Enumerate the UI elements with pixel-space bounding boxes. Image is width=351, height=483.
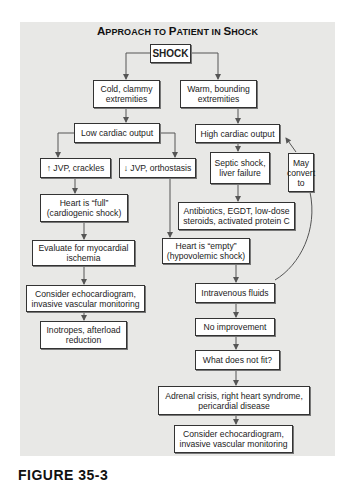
node-iv-fluids: Intravenous fluids: [195, 283, 275, 303]
node-jvp-crackles: ↑ JVP, crackles: [40, 158, 111, 178]
node-cold-extremities: Cold, clammy extremities: [93, 80, 160, 108]
node-heart-full: Heart is “full” (cardiogenic shock): [40, 194, 128, 222]
node-septic-shock: Septic shock, liver failure: [210, 152, 270, 184]
node-inotropes: Inotropes, afterload reduction: [40, 321, 127, 349]
node-echo-right: Consider echocardiogram, invasive vascul…: [174, 425, 293, 453]
node-jvp-orthostasis: ↓ JVP, orthostasis: [119, 158, 196, 178]
node-adrenal-crisis: Adrenal crisis, right heart syndrome, pe…: [158, 386, 310, 415]
figure-caption: FIGURE 35-3: [18, 467, 108, 483]
node-warm-extremities: Warm, bounding extremities: [180, 80, 257, 108]
node-may-convert: May convert to: [288, 153, 314, 192]
node-echo-left: Consider echocardiogram, invasive vascul…: [26, 285, 145, 312]
node-low-cardiac-output: Low cardiac output: [74, 123, 160, 143]
node-what-does-not-fit: What does not fit?: [195, 350, 280, 370]
node-shock: SHOCK: [150, 44, 191, 63]
node-high-cardiac-output: High cardiac output: [195, 124, 280, 143]
node-evaluate-ischemia: Evaluate for myocardial ischemia: [32, 240, 135, 266]
node-antibiotics: Antibiotics, EGDT, low-dose steroids, ac…: [178, 202, 295, 230]
node-heart-empty: Heart is “empty” (hypovolemic shock): [162, 238, 250, 264]
node-no-improvement: No improvement: [195, 318, 275, 336]
